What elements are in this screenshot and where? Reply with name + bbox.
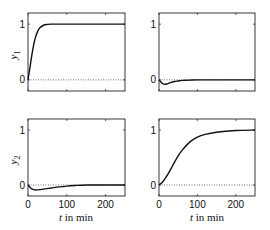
x-tick-label: 200: [97, 199, 114, 210]
panel-top-left: 01: [19, 13, 125, 91]
x-tick-label: 0: [156, 199, 162, 210]
response-curve: [28, 185, 125, 190]
y-tick-label: 1: [19, 125, 25, 136]
response-curve: [159, 80, 255, 84]
y-tick-label: 1: [19, 19, 25, 30]
panel-top-right: 01: [150, 13, 255, 91]
panel-bottom-right: 010100200: [150, 119, 255, 210]
y-tick-label: 0: [19, 180, 25, 191]
y-tick-label: 0: [19, 74, 25, 85]
x-tick-label: 100: [58, 199, 75, 210]
x-axis-label-right: t in min: [190, 211, 225, 223]
y-tick-label: 0: [150, 74, 156, 85]
x-tick-label: 100: [189, 199, 206, 210]
x-tick-label: 0: [25, 199, 31, 210]
y2-axis-label: y2: [7, 156, 22, 166]
x-tick-label: 200: [227, 199, 244, 210]
response-curve: [159, 130, 255, 185]
response-curve: [28, 24, 125, 80]
y-tick-label: 1: [150, 125, 156, 136]
y1-axis-label: y1: [7, 51, 22, 61]
x-axis-label-left: t in min: [59, 211, 94, 223]
panel-bottom-left: 010100200: [19, 119, 125, 210]
step-response-figure: 01 01 010100200 010100200 y1 y2 t in min…: [0, 0, 270, 230]
y-tick-label: 0: [150, 180, 156, 191]
y-tick-label: 1: [150, 19, 156, 30]
